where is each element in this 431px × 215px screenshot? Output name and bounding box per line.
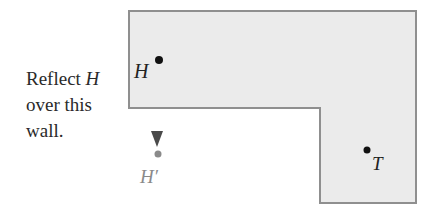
l-shaped-region: [129, 11, 416, 203]
arrow-head-icon: [151, 131, 163, 147]
point-h: [155, 56, 163, 64]
caption-line-3: wall.: [26, 118, 99, 144]
label-h-prime: H′: [139, 166, 159, 187]
caption-line-1: Reflect H: [26, 66, 99, 92]
label-t: T: [372, 153, 384, 174]
point-t: [364, 147, 371, 154]
caption-line-2: over this: [26, 92, 99, 118]
point-h-prime: [155, 151, 162, 158]
instruction-caption: Reflect H over this wall.: [26, 66, 99, 144]
label-h: H: [133, 60, 150, 82]
